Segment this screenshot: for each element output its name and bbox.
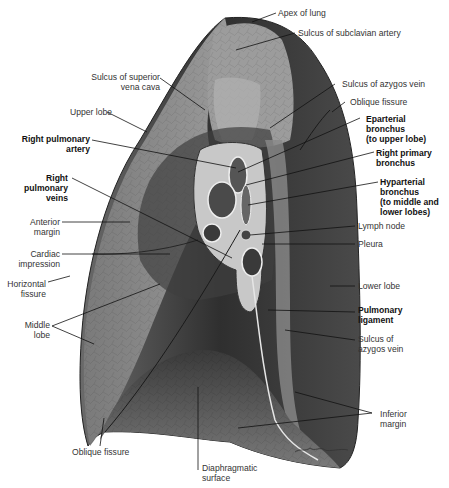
label-pulmonary-ligament: Pulmonary ligament: [358, 305, 402, 325]
label-diaphragmatic-surface: Diaphragmatic surface: [202, 463, 257, 483]
label-oblique-fissure-bottom: Oblique fissure: [72, 447, 129, 457]
label-sulcus-superior-vena-cava: Sulcus of superior vena cava: [84, 72, 160, 92]
label-anterior-margin: Anterior margin: [10, 217, 60, 237]
label-oblique-fissure-top: Oblique fissure: [350, 97, 407, 107]
label-right-primary-bronchus: Right primary bronchus: [376, 148, 432, 168]
label-sulcus-azygos-vein-bottom: Sulcus of azygos vein: [358, 334, 403, 354]
label-sulcus-subclavian-artery: Sulcus of subclavian artery: [298, 28, 401, 38]
label-inferior-margin: Inferior margin: [380, 409, 407, 429]
label-pleura: Pleura: [358, 239, 383, 249]
label-cardiac-impression: Cardiac impression: [2, 249, 60, 269]
label-lymph-node: Lymph node: [358, 221, 405, 231]
label-sulcus-azygos-vein-top: Sulcus of azygos vein: [342, 79, 425, 89]
label-horizontal-fissure: Horizontal fissure: [0, 279, 46, 299]
label-eparterial-bronchus: Eparterial bronchus (to upper lobe): [366, 114, 426, 144]
label-upper-lobe: Upper lobe: [70, 107, 112, 117]
label-hyparterial-bronchus: Hyparterial bronchus (to middle and lowe…: [380, 177, 439, 217]
label-middle-lobe: Middle lobe: [10, 320, 50, 340]
label-right-pulmonary-artery: Right pulmonary artery: [10, 134, 90, 154]
label-right-pulmonary-veins: Right pulmonary veins: [10, 173, 68, 203]
label-lower-lobe: Lower lobe: [358, 281, 400, 291]
label-apex-of-lung: Apex of lung: [278, 8, 326, 18]
